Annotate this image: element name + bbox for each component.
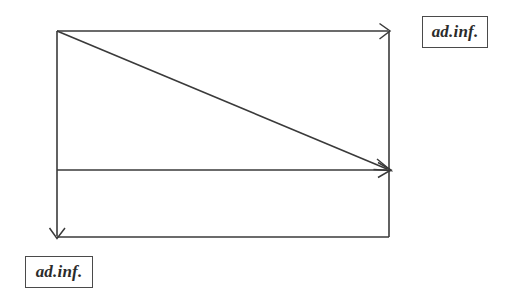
diagram-canvas: ad.inf. ad.inf. bbox=[0, 0, 514, 299]
label-text-top-right: ad.inf. bbox=[432, 23, 479, 41]
label-text-bottom-left: ad.inf. bbox=[36, 263, 83, 281]
diagonal-arrow-line bbox=[57, 31, 387, 169]
label-box-top-right: ad.inf. bbox=[422, 16, 488, 48]
label-box-bottom-left: ad.inf. bbox=[25, 256, 93, 288]
